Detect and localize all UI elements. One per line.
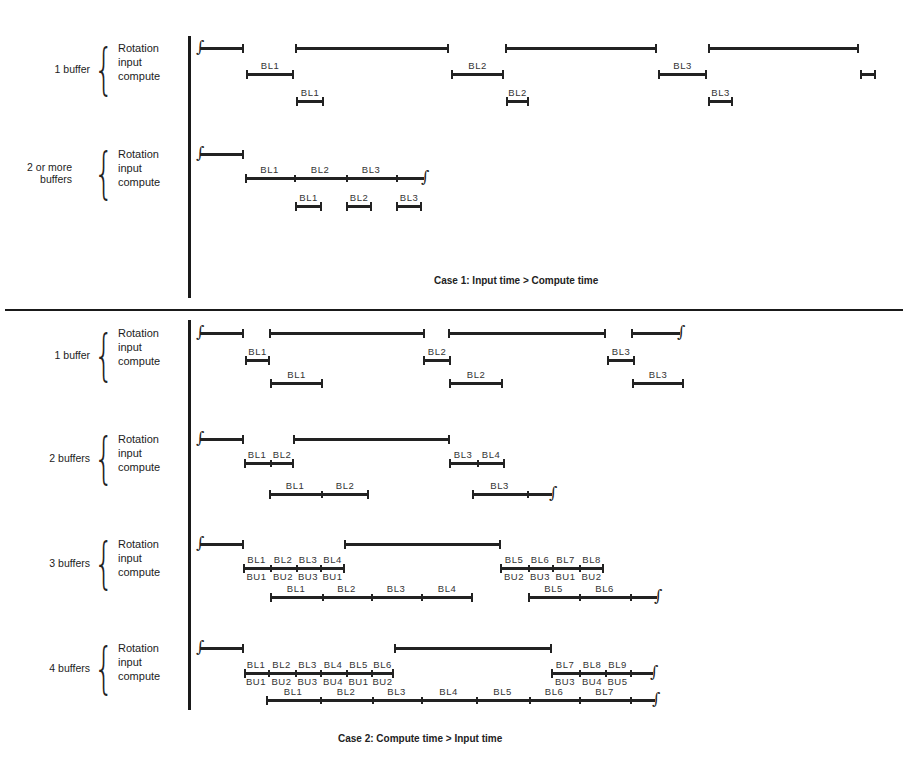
brace-icon: { xyxy=(94,145,114,201)
case2-group-label: 3 buffers xyxy=(20,557,90,569)
case-divider xyxy=(5,309,903,311)
bar-cap-icon xyxy=(321,379,323,388)
bar-cap-icon xyxy=(423,329,425,338)
rotation-bar xyxy=(505,47,657,50)
time-axis-case2 xyxy=(188,320,191,710)
tick-mark-icon xyxy=(346,175,348,182)
wavy-end-icon: ∫ xyxy=(549,485,557,501)
input-bar xyxy=(245,359,270,362)
wavy-end-icon: ∫ xyxy=(654,588,662,604)
compute-bar xyxy=(632,382,684,385)
compute-bar xyxy=(708,100,733,103)
tick-mark-icon xyxy=(372,697,374,704)
wavy-start-icon: ∫ xyxy=(196,535,204,551)
bar-cap-icon xyxy=(604,329,606,338)
bar-cap-icon xyxy=(266,696,268,705)
bar-cap-icon xyxy=(658,70,660,79)
input-label: BL1 xyxy=(248,346,266,357)
input-label: BL2 xyxy=(428,346,446,357)
input-label: BL1 xyxy=(260,164,278,175)
compute-bar xyxy=(396,205,422,208)
input-label: BL5 xyxy=(505,554,523,565)
bar-cap-icon xyxy=(346,202,348,211)
compute-label: BL1 xyxy=(286,480,304,491)
input-label: BL2 xyxy=(272,659,290,670)
case2-row-labels: Rotationinputcompute xyxy=(118,326,160,368)
bar-cap-icon xyxy=(270,379,272,388)
compute-label: BL4 xyxy=(438,583,456,594)
bar-cap-icon xyxy=(708,44,710,53)
bar-cap-icon xyxy=(370,202,372,211)
brace-icon: { xyxy=(94,41,114,97)
input-label: BL1 xyxy=(248,449,266,460)
bar-cap-icon xyxy=(242,150,244,159)
bar-cap-icon xyxy=(506,97,508,106)
wavy-start-icon: ∫ xyxy=(196,639,204,655)
compute-label: BL4 xyxy=(439,686,457,697)
compute-label: BL2 xyxy=(508,87,526,98)
compute-label: BL6 xyxy=(545,686,563,697)
compute-label: BL1 xyxy=(284,686,302,697)
bar-cap-icon xyxy=(449,356,451,365)
tick-mark-icon xyxy=(421,697,423,704)
row-label: Rotation xyxy=(118,537,160,551)
case2-group-label: 1 buffer xyxy=(20,349,90,361)
row-label: input xyxy=(118,161,160,175)
input-buffer-label: BU1 xyxy=(323,571,343,582)
input-bar xyxy=(860,73,876,76)
bar-cap-icon xyxy=(551,669,553,678)
case2-group-label: 4 buffers xyxy=(20,662,90,674)
tick-mark-icon xyxy=(321,491,323,498)
row-label: input xyxy=(118,340,160,354)
bar-cap-icon xyxy=(501,379,503,388)
compute-label: BL2 xyxy=(350,192,368,203)
case1-row-labels: Rotationinputcompute xyxy=(118,41,160,83)
bar-cap-icon xyxy=(448,329,450,338)
bar-cap-icon xyxy=(293,435,295,444)
bar-cap-icon xyxy=(295,202,297,211)
input-label: BL6 xyxy=(373,659,391,670)
tick-mark-icon xyxy=(552,565,554,572)
bar-cap-icon xyxy=(367,490,369,499)
input-label: BL5 xyxy=(349,659,367,670)
bar-cap-icon xyxy=(449,379,451,388)
bar-cap-icon xyxy=(505,44,507,53)
input-label: BL4 xyxy=(324,659,342,670)
compute-label: BL5 xyxy=(544,583,562,594)
compute-label: BL1 xyxy=(299,192,317,203)
bar-cap-icon xyxy=(447,44,449,53)
row-label: Rotation xyxy=(118,326,160,340)
brace-icon: { xyxy=(94,430,114,486)
rotation-bar xyxy=(200,647,244,650)
input-bar xyxy=(658,73,707,76)
case1-group-label: 1 buffer xyxy=(20,63,90,75)
input-label: BL1 xyxy=(247,554,265,565)
input-label: BL3 xyxy=(362,164,380,175)
input-buffer-label: BU2 xyxy=(504,571,524,582)
compute-label: BL1 xyxy=(287,583,305,594)
bar-cap-icon xyxy=(472,490,474,499)
bar-cap-icon xyxy=(244,459,246,468)
input-label: BL2 xyxy=(468,60,486,71)
compute-label: BL2 xyxy=(337,583,355,594)
compute-label: BL3 xyxy=(490,480,508,491)
tick-mark-icon xyxy=(294,175,296,182)
row-label: Rotation xyxy=(118,432,160,446)
wavy-end-icon: ∫ xyxy=(677,324,685,340)
bar-cap-icon xyxy=(633,356,635,365)
compute-label: BL1 xyxy=(301,87,319,98)
rotation-bar xyxy=(708,47,859,50)
tick-mark-icon xyxy=(320,670,322,677)
compute-label: BL2 xyxy=(467,369,485,380)
tick-mark-icon xyxy=(579,697,581,704)
input-bar xyxy=(423,359,451,362)
bar-cap-icon xyxy=(296,97,298,106)
bar-cap-icon xyxy=(708,97,710,106)
bar-cap-icon xyxy=(502,70,504,79)
bar-cap-icon xyxy=(420,202,422,211)
bar-cap-icon xyxy=(242,329,244,338)
bar-cap-icon xyxy=(320,202,322,211)
tick-mark-icon xyxy=(268,670,270,677)
bar-cap-icon xyxy=(655,44,657,53)
input-label: BL3 xyxy=(454,449,472,460)
